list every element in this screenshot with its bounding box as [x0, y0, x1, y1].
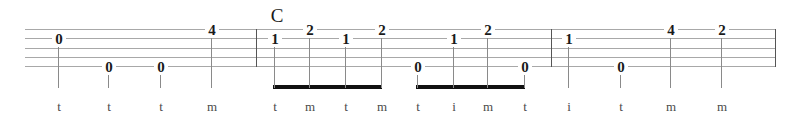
- fret-number: 0: [52, 32, 66, 47]
- fret-number: 0: [154, 60, 168, 75]
- staff-line-3: [25, 48, 776, 49]
- fret-number: 2: [481, 23, 495, 38]
- fingering-letter: t: [51, 100, 67, 113]
- staff-line-5: [25, 66, 776, 67]
- fret-number: 0: [411, 60, 425, 75]
- fingering-letter: t: [267, 100, 283, 113]
- barline-1: [256, 29, 257, 67]
- fret-number: 2: [715, 23, 729, 38]
- staff-line-2: [25, 38, 776, 39]
- fingering-letter: m: [204, 100, 220, 113]
- fingering-letter: m: [374, 100, 390, 113]
- fret-number: 1: [562, 32, 576, 47]
- note-stem: [58, 40, 59, 88]
- note-stem: [453, 40, 454, 88]
- barline-2: [551, 29, 552, 67]
- fingering-letter: t: [410, 100, 426, 113]
- fingering-letter: m: [663, 100, 679, 113]
- fingering-letter: t: [101, 100, 117, 113]
- fret-number: 4: [664, 23, 678, 38]
- fret-number: 1: [339, 32, 353, 47]
- fret-number: 2: [375, 23, 389, 38]
- chord-label: C: [266, 6, 288, 25]
- fingering-letter: m: [302, 100, 318, 113]
- fret-number: 0: [614, 60, 628, 75]
- fingering-letter: t: [613, 100, 629, 113]
- tablature-sheet: C0t0t0t4m1t2m1t2m0t1i2m0t1i0t4m2m: [0, 0, 806, 119]
- note-stem: [345, 40, 346, 88]
- note-stem: [309, 31, 310, 88]
- note-stem: [274, 40, 275, 88]
- fret-number: 0: [102, 60, 116, 75]
- fingering-letter: i: [561, 100, 577, 113]
- note-stem: [670, 31, 671, 88]
- fret-number: 1: [447, 32, 461, 47]
- note-stem: [721, 31, 722, 88]
- beam-group-1: [273, 85, 382, 89]
- note-stem: [381, 31, 382, 88]
- fingering-letter: t: [153, 100, 169, 113]
- note-stem: [487, 31, 488, 88]
- beam-group-2: [416, 85, 525, 89]
- fingering-letter: t: [517, 100, 533, 113]
- note-stem: [211, 31, 212, 88]
- note-stem: [568, 40, 569, 88]
- fingering-letter: i: [446, 100, 462, 113]
- fret-number: 0: [518, 60, 532, 75]
- fingering-letter: m: [480, 100, 496, 113]
- barline-end: [775, 29, 776, 67]
- fingering-letter: t: [338, 100, 354, 113]
- fret-number: 2: [303, 23, 317, 38]
- fret-number: 1: [268, 32, 282, 47]
- fret-number: 4: [205, 23, 219, 38]
- staff-line-4: [25, 57, 776, 58]
- fingering-letter: m: [714, 100, 730, 113]
